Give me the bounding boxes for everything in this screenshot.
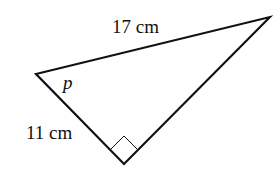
side-label: 11 cm xyxy=(26,122,72,143)
triangle-diagram: 17 cm 11 cm p xyxy=(0,0,273,178)
hypotenuse-label: 17 cm xyxy=(112,16,159,37)
right-angle-marker xyxy=(110,136,138,150)
angle-label: p xyxy=(61,72,73,93)
